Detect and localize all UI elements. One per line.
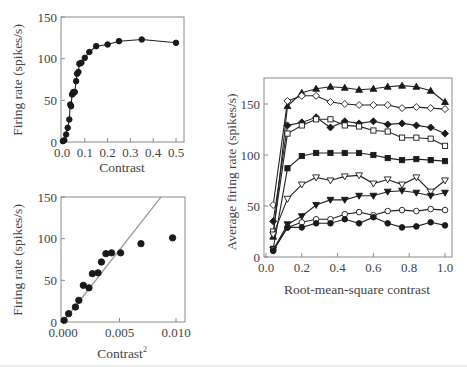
data-point bbox=[98, 259, 104, 265]
data-point bbox=[285, 225, 291, 231]
data-point bbox=[413, 122, 420, 129]
series-line-response bbox=[63, 40, 176, 142]
y-tick-label: 0 bbox=[51, 135, 58, 150]
x-tick-label: 0.0 bbox=[258, 260, 274, 275]
data-point bbox=[327, 83, 334, 89]
data-point bbox=[399, 82, 406, 88]
data-point bbox=[327, 178, 334, 184]
data-point bbox=[328, 117, 333, 122]
data-point bbox=[285, 166, 290, 171]
data-point bbox=[427, 193, 434, 199]
data-point bbox=[270, 248, 276, 254]
y-tick-label: 0 bbox=[51, 315, 58, 330]
data-point bbox=[86, 285, 92, 291]
series-group bbox=[60, 37, 179, 144]
series-filled-square bbox=[271, 150, 448, 251]
x-tick-label: 0.8 bbox=[401, 260, 417, 275]
data-point bbox=[356, 209, 362, 215]
data-point bbox=[117, 250, 123, 256]
figure: 0.00.10.20.30.40.5 050100150 Contrast Fi… bbox=[0, 0, 467, 367]
data-point bbox=[399, 182, 406, 188]
x-ticks: 0.00.20.40.60.81.0 bbox=[258, 253, 453, 275]
data-point bbox=[413, 104, 420, 111]
data-point bbox=[399, 120, 406, 127]
x-tick-label: 0.6 bbox=[365, 260, 382, 275]
y-tick-label: 150 bbox=[38, 10, 58, 25]
data-point bbox=[399, 105, 406, 112]
data-point bbox=[66, 117, 72, 123]
x-ticks: 0.00.10.20.30.40.5 bbox=[54, 138, 184, 160]
x-tick-label: 1.0 bbox=[437, 260, 453, 275]
x-axis-label-text: Contrast bbox=[97, 346, 143, 361]
data-point bbox=[285, 131, 290, 136]
data-point bbox=[65, 125, 71, 131]
data-point bbox=[298, 214, 305, 220]
data-point bbox=[442, 106, 449, 113]
data-point bbox=[82, 55, 88, 61]
data-point bbox=[61, 138, 67, 144]
x-tick-label: 0.005 bbox=[105, 325, 134, 340]
data-point bbox=[414, 135, 419, 140]
data-point bbox=[73, 78, 79, 84]
series-open-circle bbox=[270, 206, 447, 252]
data-point bbox=[68, 103, 74, 109]
data-point bbox=[313, 92, 320, 99]
data-point bbox=[442, 143, 447, 148]
data-point bbox=[399, 135, 404, 140]
y-tick-label: 100 bbox=[38, 51, 58, 66]
y-tick-label: 50 bbox=[44, 273, 57, 288]
series-filled-diamond bbox=[270, 114, 449, 225]
data-point bbox=[299, 123, 304, 128]
data-point bbox=[399, 158, 404, 163]
y-tick-label: 0 bbox=[254, 250, 261, 265]
x-axis-label: Root-mean-square contrast bbox=[284, 282, 430, 297]
data-point bbox=[342, 123, 347, 128]
data-point bbox=[284, 196, 291, 202]
data-point bbox=[428, 220, 434, 226]
y-axis-label: Average firing rate (spikes/s) bbox=[224, 94, 239, 251]
data-point bbox=[342, 150, 347, 155]
x-axis-label: Contrast2 bbox=[97, 345, 147, 361]
data-point bbox=[105, 42, 111, 48]
data-point bbox=[341, 101, 348, 108]
data-point bbox=[385, 221, 391, 227]
data-point bbox=[427, 105, 434, 112]
x-axis-label: Contrast bbox=[99, 160, 145, 175]
data-point bbox=[399, 225, 405, 231]
data-point bbox=[116, 38, 122, 44]
data-point bbox=[371, 214, 377, 220]
data-point bbox=[385, 129, 390, 134]
y-tick-label: 50 bbox=[247, 199, 260, 214]
data-point bbox=[95, 270, 101, 276]
data-point bbox=[93, 43, 99, 49]
data-point bbox=[328, 150, 333, 155]
data-point bbox=[356, 102, 363, 109]
data-point bbox=[139, 37, 145, 43]
data-point bbox=[72, 304, 78, 310]
series-open-triangle-down bbox=[270, 173, 449, 238]
x-tick-label: 0.3 bbox=[122, 145, 138, 160]
data-point bbox=[76, 297, 82, 303]
data-point bbox=[414, 224, 420, 230]
y-tick-label: 150 bbox=[38, 190, 58, 205]
data-point bbox=[385, 208, 391, 214]
series-filled-circle bbox=[270, 214, 447, 253]
data-point bbox=[427, 124, 434, 131]
data-point bbox=[384, 102, 391, 109]
data-point bbox=[313, 221, 319, 227]
series-line bbox=[273, 117, 445, 221]
data-point bbox=[442, 207, 448, 213]
data-point bbox=[108, 250, 114, 256]
data-point bbox=[399, 207, 405, 213]
data-point bbox=[385, 155, 390, 160]
data-point bbox=[428, 136, 433, 141]
x-tick-label: 0.5 bbox=[168, 145, 184, 160]
x-ticks: 0.0000.0050.010 bbox=[48, 318, 190, 340]
data-point bbox=[314, 117, 319, 122]
data-point bbox=[65, 310, 71, 316]
x-tick-label: 0.1 bbox=[77, 145, 93, 160]
data-point bbox=[328, 221, 334, 227]
data-point bbox=[169, 235, 175, 241]
data-point bbox=[414, 156, 419, 161]
data-point bbox=[384, 121, 391, 128]
